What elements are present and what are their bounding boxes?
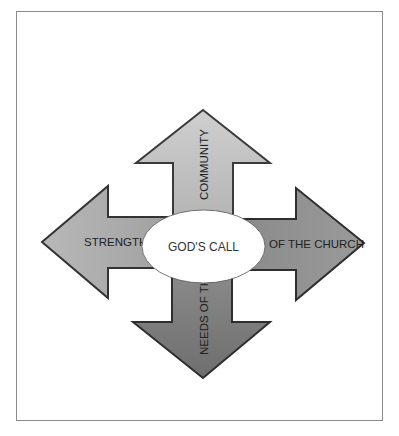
arrow-right-label: OF THE CHURCH (269, 238, 364, 250)
center-label: GOD'S CALL (168, 240, 239, 254)
arrow-up-label: COMMUNITY (198, 129, 210, 200)
center-ellipse-gods-call: GOD'S CALL (142, 210, 265, 283)
arrow-up-community: COMMUNITY (136, 110, 270, 225)
four-arrow-diagram: COMMUNITY NEEDS OF THE STRENGTHS OF THE … (0, 0, 399, 436)
